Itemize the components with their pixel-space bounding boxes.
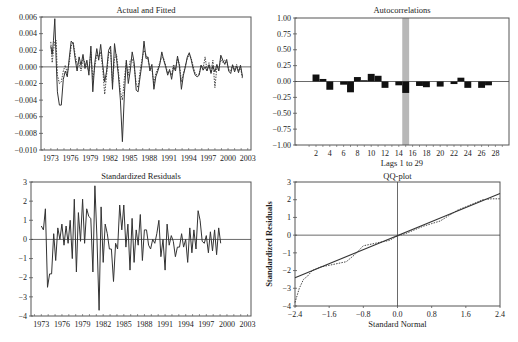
y-tick-label: 0.006 — [19, 13, 37, 22]
x-tick-label: 1997 — [200, 154, 216, 163]
x-tick-label: 10 — [367, 149, 375, 158]
x-tick-label: 2.4 — [495, 310, 505, 319]
acf-bar — [395, 82, 402, 86]
acf-bar — [313, 75, 320, 82]
y-tick-label: 0.002 — [19, 46, 37, 55]
y-tick-label: 0.004 — [19, 29, 37, 38]
acf-bar — [464, 82, 471, 88]
y-tick-label: 0 — [287, 231, 291, 240]
chart-title: Actual and Fitted — [116, 5, 176, 15]
x-tick-label: 1973 — [33, 320, 49, 329]
acf-bar — [319, 79, 326, 82]
x-tick-label: 2000 — [219, 320, 235, 329]
plot-frame — [41, 17, 251, 150]
x-tick-label: 26 — [478, 149, 486, 158]
acf-bar — [485, 82, 492, 86]
x-tick-label: −0.8 — [356, 310, 371, 319]
x-tick-label: 20 — [436, 149, 444, 158]
x-tick-label: 1991 — [157, 320, 173, 329]
x-tick-label: 0.0 — [393, 310, 403, 319]
x-axis-label: Lags 1 to 29 — [381, 158, 423, 168]
y-tick-label: −0.006 — [14, 112, 37, 121]
y-tick-label: −1 — [18, 254, 27, 263]
x-tick-label: 1976 — [63, 154, 79, 163]
y-tick-label: −4 — [18, 312, 27, 321]
x-tick-label: 1979 — [82, 154, 98, 163]
x-tick-label: 2003 — [240, 154, 256, 163]
y-tick-label: 0.75 — [277, 30, 291, 39]
x-tick-label: 0.8 — [427, 310, 437, 319]
actual-fitted-panel: Actual and Fitted0.0060.0040.0020.000−0.… — [0, 0, 259, 170]
x-tick-label: 16 — [409, 149, 417, 158]
y-tick-label: 1 — [287, 213, 291, 222]
x-tick-label: 2003 — [240, 320, 256, 329]
acf-bar — [361, 80, 368, 81]
acf-bar — [326, 82, 333, 90]
x-axis-label: Standard Normal — [368, 319, 427, 329]
x-tick-label: 1988 — [141, 154, 157, 163]
acf-bar — [416, 82, 423, 86]
y-tick-label: −0.50 — [272, 109, 291, 118]
y-tick-label: 0 — [23, 235, 27, 244]
y-tick-label: 0.000 — [19, 63, 37, 72]
y-tick-label: −0.004 — [14, 96, 37, 105]
acf-bar — [451, 82, 458, 85]
y-tick-label: 1.00 — [277, 14, 291, 23]
autocorrelations-chart: Autocorrelations1.000.750.500.250.00−0.2… — [259, 0, 518, 170]
y-tick-label: 1 — [23, 216, 27, 225]
x-tick-label: 1994 — [178, 320, 194, 329]
x-tick-label: 1985 — [122, 154, 138, 163]
acf-bar — [382, 82, 389, 88]
y-tick-label: −0.002 — [14, 79, 37, 88]
acf-bar — [347, 82, 354, 93]
fitted-series-line — [51, 40, 243, 100]
residuals-series-line — [41, 186, 220, 310]
acf-bar — [368, 74, 375, 82]
y-tick-label: −0.008 — [14, 129, 37, 138]
y-tick-label: 3 — [23, 178, 27, 187]
y-tick-label: 3 — [287, 178, 291, 187]
y-tick-label: 0.00 — [277, 77, 291, 86]
acf-bar — [402, 82, 409, 93]
x-tick-label: 14 — [395, 149, 403, 158]
standardized-residuals-panel: Standardized Residuals3210−1−2−3−4197319… — [0, 170, 259, 342]
acf-bar — [437, 82, 444, 87]
y-tick-label: −2 — [282, 266, 291, 275]
y-tick-label: 2 — [23, 197, 27, 206]
x-tick-label: 1982 — [102, 154, 118, 163]
x-tick-label: 1988 — [136, 320, 152, 329]
actual-series-line — [51, 19, 243, 142]
x-tick-label: 1973 — [43, 154, 59, 163]
y-tick-label: −0.75 — [272, 125, 291, 134]
x-tick-label: 4 — [328, 149, 332, 158]
chart-title: Autocorrelations — [373, 5, 430, 15]
standardized-residuals-chart: Standardized Residuals3210−1−2−3−4197319… — [0, 170, 259, 342]
acf-bar — [340, 82, 347, 85]
x-tick-label: 1982 — [95, 320, 111, 329]
y-tick-label: −1 — [282, 249, 291, 258]
x-tick-label: 1994 — [181, 154, 197, 163]
x-tick-label: 1.6 — [461, 310, 471, 319]
y-tick-label: −2 — [18, 273, 27, 282]
chart-title: Standardized Residuals — [101, 171, 181, 181]
y-tick-label: 0.25 — [277, 61, 291, 70]
x-tick-label: 1985 — [116, 320, 132, 329]
y-tick-label: −3 — [18, 293, 27, 302]
x-tick-label: 1997 — [198, 320, 214, 329]
acf-bar — [354, 77, 361, 81]
x-tick-label: 2000 — [220, 154, 236, 163]
x-tick-label: 18 — [422, 149, 430, 158]
x-tick-label: 1976 — [54, 320, 70, 329]
qq-plot-chart: QQ-plot3210−1−2−3−4−2.4−1.6−0.80.00.81.6… — [259, 170, 518, 342]
x-tick-label: 24 — [464, 149, 472, 158]
x-tick-label: 1991 — [161, 154, 177, 163]
acf-bar — [423, 82, 430, 88]
x-tick-label: 1979 — [75, 320, 91, 329]
y-tick-label: 0.50 — [277, 45, 291, 54]
x-tick-label: 6 — [342, 149, 346, 158]
x-tick-label: 8 — [355, 149, 359, 158]
x-tick-label: −2.4 — [288, 310, 303, 319]
acf-bar — [478, 82, 485, 88]
plot-frame — [31, 182, 251, 316]
chart-title: QQ-plot — [383, 171, 412, 181]
